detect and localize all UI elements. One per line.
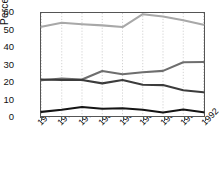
- y-tick-label-10: 10: [0, 95, 14, 105]
- y-tick-label-20: 20: [0, 77, 14, 87]
- x-tick-mark-1992: [205, 117, 206, 121]
- series-light-gray: [41, 14, 203, 27]
- y-tick-label-40: 40: [0, 42, 14, 52]
- x-tick-mark-1980: [102, 117, 103, 121]
- y-tick-label-60: 60: [0, 7, 14, 17]
- line-chart: Percent 0102030405060 197519771979198019…: [0, 0, 220, 170]
- plot-area: [40, 12, 205, 117]
- x-tick-mark-1975: [41, 117, 42, 121]
- x-tick-mark-1979: [82, 117, 83, 121]
- y-tick-label-50: 50: [0, 25, 14, 35]
- series-black: [41, 107, 203, 112]
- y-tick-label-0: 0: [0, 112, 14, 122]
- x-tick-mark-1977: [61, 117, 62, 121]
- x-tick-mark-1981: [123, 117, 124, 121]
- series-lines: [41, 13, 204, 116]
- x-tick-mark-1983: [143, 117, 144, 121]
- y-tick-label-30: 30: [0, 60, 14, 70]
- series-medium-gray: [41, 62, 203, 80]
- x-tick-mark-1990: [184, 117, 185, 121]
- series-dark-gray: [41, 79, 203, 92]
- x-tick-mark-1988: [164, 117, 165, 121]
